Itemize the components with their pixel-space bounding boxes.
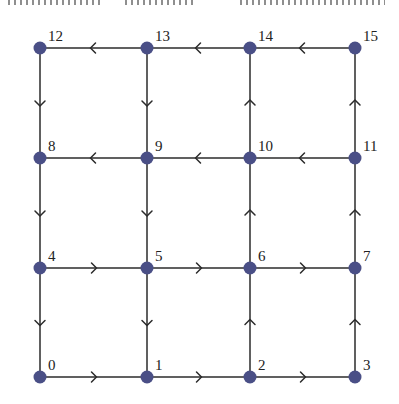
- node-label-6: 6: [258, 248, 266, 264]
- edge-6-to-7: [250, 263, 355, 273]
- edge-13-to-9: [142, 48, 152, 158]
- node-label-14: 14: [258, 28, 274, 44]
- nodes-layer: [34, 42, 362, 384]
- node-label-11: 11: [363, 138, 377, 154]
- edge-15-to-14: [250, 43, 355, 53]
- edge-9-to-5: [142, 158, 152, 268]
- edge-10-to-9: [147, 153, 250, 163]
- edge-10-to-14: [245, 48, 255, 158]
- node-label-5: 5: [155, 248, 163, 264]
- edge-14-to-13: [147, 43, 250, 53]
- node-5: [141, 262, 154, 275]
- node-label-10: 10: [258, 138, 273, 154]
- node-7: [349, 262, 362, 275]
- directed-grid-graph: 0123456789101112131415: [0, 0, 399, 404]
- edge-6-to-10: [245, 158, 255, 268]
- edge-11-to-15: [350, 48, 360, 158]
- node-11: [349, 152, 362, 165]
- node-label-0: 0: [48, 357, 56, 373]
- edge-8-to-4: [35, 158, 45, 268]
- node-label-1: 1: [155, 357, 163, 373]
- node-10: [244, 152, 257, 165]
- edge-2-to-6: [245, 268, 255, 377]
- edge-4-to-0: [35, 268, 45, 377]
- edge-9-to-8: [40, 153, 147, 163]
- node-15: [349, 42, 362, 55]
- edge-13-to-12: [40, 43, 147, 53]
- edges-layer: [35, 43, 360, 382]
- edge-7-to-11: [350, 158, 360, 268]
- node-1: [141, 371, 154, 384]
- node-label-4: 4: [48, 248, 56, 264]
- node-0: [34, 371, 47, 384]
- node-9: [141, 152, 154, 165]
- edge-3-to-7: [350, 268, 360, 377]
- node-label-3: 3: [363, 357, 371, 373]
- node-3: [349, 371, 362, 384]
- edge-0-to-1: [40, 372, 147, 382]
- node-6: [244, 262, 257, 275]
- edge-5-to-6: [147, 263, 250, 273]
- node-label-8: 8: [48, 138, 56, 154]
- node-12: [34, 42, 47, 55]
- edge-2-to-3: [250, 372, 355, 382]
- node-label-13: 13: [155, 28, 170, 44]
- node-label-12: 12: [48, 28, 63, 44]
- edge-1-to-2: [147, 372, 250, 382]
- node-8: [34, 152, 47, 165]
- node-13: [141, 42, 154, 55]
- labels-layer: 0123456789101112131415: [48, 28, 378, 373]
- edge-11-to-10: [250, 153, 355, 163]
- node-2: [244, 371, 257, 384]
- node-label-9: 9: [155, 138, 163, 154]
- edge-12-to-8: [35, 48, 45, 158]
- edge-5-to-1: [142, 268, 152, 377]
- node-4: [34, 262, 47, 275]
- node-label-15: 15: [363, 28, 378, 44]
- node-14: [244, 42, 257, 55]
- node-label-7: 7: [363, 248, 371, 264]
- node-label-2: 2: [258, 357, 266, 373]
- edge-4-to-5: [40, 263, 147, 273]
